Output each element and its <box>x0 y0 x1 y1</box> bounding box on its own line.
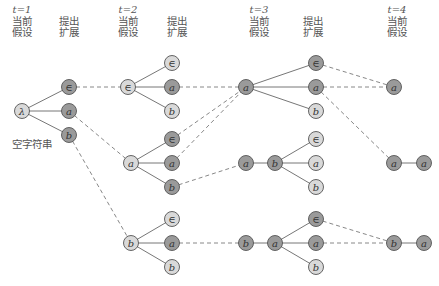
node-label: a <box>243 158 249 169</box>
node-label: b <box>272 158 278 169</box>
node-t2A_a: a <box>165 80 180 95</box>
column-header-expand-t3: 提出 扩展 <box>298 16 328 38</box>
node-t3B_b: b <box>309 180 324 195</box>
node-t4B1: a <box>387 156 402 171</box>
node-label: λ <box>18 106 25 117</box>
node-t2A_b: b <box>165 104 180 119</box>
node-t2B_e: ∈ <box>165 132 180 147</box>
node-label: a <box>169 158 175 169</box>
node-t3A_root: a <box>239 80 254 95</box>
node-t2B_b: b <box>165 180 180 195</box>
node-t4B2: a <box>417 156 432 171</box>
node-label: ∈ <box>168 134 175 145</box>
node-t3A_b: b <box>309 104 324 119</box>
node-t3B_root1: a <box>239 156 254 171</box>
node-label: b <box>169 106 175 117</box>
node-label: ∈ <box>124 82 131 93</box>
node-t3C_a: a <box>309 236 324 251</box>
node-label: a <box>128 158 134 169</box>
node-label: ∈ <box>168 214 175 225</box>
node-t2C_b: b <box>165 260 180 275</box>
header-line: 假设 <box>244 27 274 38</box>
node-t3A_a: a <box>309 80 324 95</box>
node-t3C_root1: b <box>239 236 254 251</box>
node-label: b <box>66 130 72 141</box>
node-t4A: a <box>387 80 402 95</box>
node-t4C1: b <box>387 236 402 251</box>
edges-layer: λ∈ab∈∈aba∈abb∈aba∈abab∈abba∈abaaaba <box>0 0 439 286</box>
node-label: a <box>313 82 319 93</box>
dashed-edge <box>316 63 394 87</box>
node-t2A_root: ∈ <box>121 80 136 95</box>
node-t2B_root: a <box>124 156 139 171</box>
node-t1_b: b <box>62 128 77 143</box>
time-label-t3: t=3 <box>244 4 274 15</box>
node-label: a <box>313 238 319 249</box>
node-t3C_b: b <box>309 260 324 275</box>
node-t3C_e: ∈ <box>309 212 324 227</box>
node-label: b <box>391 238 397 249</box>
node-label: ∈ <box>312 214 319 225</box>
node-t2A_e: ∈ <box>165 56 180 71</box>
node-t1_e: ∈ <box>62 80 77 95</box>
column-header-current-t2: 当前 假设 <box>113 16 143 38</box>
node-label: ∈ <box>168 58 175 69</box>
node-t2C_root: b <box>124 236 139 251</box>
header-line: 扩展 <box>298 27 328 38</box>
column-header-current-t4: 当前 假设 <box>382 16 412 38</box>
header-line: 假设 <box>382 27 412 38</box>
time-label-t4: t=4 <box>382 4 412 15</box>
node-label: ∈ <box>312 134 319 145</box>
column-header-current-t1: 当前 假设 <box>7 16 37 38</box>
beam-search-diagram: λ∈ab∈∈aba∈abb∈aba∈abab∈abba∈abaaaba t=1 … <box>0 0 439 286</box>
header-line: 假设 <box>7 27 37 38</box>
node-label: b <box>243 238 249 249</box>
column-header-expand-t1: 提出 扩展 <box>54 16 84 38</box>
node-label: a <box>169 82 175 93</box>
node-t4C2: a <box>417 236 432 251</box>
node-t3A_e: ∈ <box>309 56 324 71</box>
time-label-t1: t=1 <box>7 4 37 15</box>
dashed-edge <box>69 111 131 163</box>
node-t2C_e: ∈ <box>165 212 180 227</box>
tree-edge <box>246 63 316 87</box>
dashed-edge <box>316 219 394 243</box>
dashed-edge <box>172 163 246 187</box>
node-label: b <box>313 182 319 193</box>
tree-edge <box>246 87 316 111</box>
node-t1_a: a <box>62 104 77 119</box>
node-t3B_e: ∈ <box>309 132 324 147</box>
node-label: a <box>421 158 427 169</box>
node-label: a <box>391 82 397 93</box>
time-label-t2: t=2 <box>113 4 143 15</box>
header-line: 扩展 <box>54 27 84 38</box>
node-label: a <box>243 82 249 93</box>
dashed-edge <box>316 87 394 163</box>
column-header-expand-t2: 提出 扩展 <box>162 16 192 38</box>
dashed-edge <box>172 87 246 163</box>
node-label: b <box>313 262 319 273</box>
node-label: a <box>391 158 397 169</box>
node-label: b <box>169 262 175 273</box>
node-label: a <box>421 238 427 249</box>
node-label: b <box>313 106 319 117</box>
node-label: a <box>66 106 72 117</box>
header-line: 扩展 <box>162 27 192 38</box>
dashed-edge <box>69 135 131 243</box>
node-label: a <box>313 158 319 169</box>
node-t2B_a: a <box>165 156 180 171</box>
header-line: 假设 <box>113 27 143 38</box>
node-t3B_root2: b <box>268 156 283 171</box>
node-label: a <box>169 238 175 249</box>
node-label: ∈ <box>312 58 319 69</box>
node-label: a <box>272 238 278 249</box>
column-header-current-t3: 当前 假设 <box>244 16 274 38</box>
node-t3C_root2: a <box>268 236 283 251</box>
node-label: b <box>128 238 134 249</box>
node-t3B_a: a <box>309 156 324 171</box>
dashed-edge <box>172 87 246 139</box>
empty-string-annotation: 空字符串 <box>12 136 52 151</box>
node-label: ∈ <box>65 82 72 93</box>
node-label: b <box>169 182 175 193</box>
node-t2C_a: a <box>165 236 180 251</box>
